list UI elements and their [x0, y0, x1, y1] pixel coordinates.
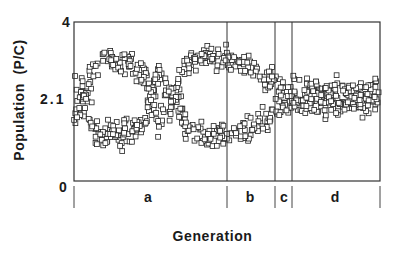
- data-point-square: [243, 69, 248, 74]
- region-label-b: b: [242, 189, 258, 205]
- data-point-square: [202, 137, 207, 142]
- data-point-square: [218, 128, 223, 133]
- data-point-square: [270, 74, 275, 79]
- data-point-square: [134, 79, 139, 84]
- data-point-square: [211, 131, 216, 136]
- data-point-square: [366, 98, 371, 103]
- data-point-square: [117, 128, 122, 133]
- data-point-square: [146, 86, 151, 91]
- data-point-square: [342, 107, 347, 112]
- data-point-square: [286, 85, 291, 90]
- data-point-square: [95, 142, 100, 147]
- data-point-square: [279, 93, 284, 98]
- data-point-square: [221, 141, 226, 146]
- data-point-square: [351, 83, 356, 88]
- data-point-square: [277, 113, 282, 118]
- data-point-square: [156, 134, 161, 139]
- region-label-a: a: [140, 189, 156, 205]
- data-point-square: [304, 104, 309, 109]
- data-point-square: [292, 89, 297, 94]
- data-point-square: [156, 119, 161, 124]
- data-point-square: [314, 79, 319, 84]
- data-point-square: [196, 125, 201, 130]
- data-point-square: [153, 77, 158, 82]
- data-point-square: [329, 99, 334, 104]
- data-point-square: [143, 120, 148, 125]
- data-point-square: [178, 106, 183, 111]
- data-point-square: [248, 70, 253, 75]
- data-point-square: [329, 107, 334, 112]
- data-point-square: [167, 118, 172, 123]
- y-tick-0: 0: [59, 180, 67, 194]
- data-point-square: [128, 64, 133, 69]
- region-label-c: c: [277, 189, 291, 205]
- data-point-square: [75, 115, 80, 120]
- data-point-square: [351, 106, 356, 111]
- data-point-square: [263, 82, 268, 87]
- data-point-square: [373, 107, 378, 112]
- data-point-square: [334, 93, 339, 98]
- data-point-square: [102, 50, 107, 55]
- data-point-square: [80, 79, 85, 84]
- data-point-square: [122, 121, 127, 126]
- data-point-square: [122, 52, 127, 57]
- data-point-square: [161, 107, 166, 112]
- data-point-square: [90, 124, 95, 129]
- data-point-square: [322, 108, 327, 113]
- data-point-square: [156, 81, 161, 86]
- scatter-chart: [0, 0, 395, 255]
- data-point-square: [214, 69, 219, 74]
- data-point-square: [237, 60, 242, 65]
- data-point-square: [238, 124, 243, 129]
- region-label-d: d: [327, 189, 343, 205]
- data-point-square: [145, 105, 150, 110]
- data-point-square: [281, 80, 286, 85]
- data-point-square: [103, 141, 108, 146]
- data-point-square: [234, 131, 239, 136]
- data-point-square: [323, 113, 328, 118]
- data-point-square: [210, 57, 215, 62]
- data-point-square: [133, 134, 138, 139]
- data-point-square: [302, 88, 307, 93]
- data-point-square: [93, 64, 98, 69]
- y-tick-4: 4: [62, 15, 70, 29]
- data-point-square: [309, 81, 314, 86]
- data-point-square: [216, 52, 221, 57]
- data-point-square: [297, 77, 302, 82]
- data-point-square: [209, 46, 214, 51]
- data-point-square: [332, 83, 337, 88]
- data-point-square: [221, 123, 226, 128]
- data-point-square: [260, 104, 265, 109]
- data-point-square: [261, 126, 266, 131]
- data-point-square: [123, 126, 128, 131]
- data-point-square: [118, 144, 123, 149]
- data-point-square: [333, 87, 338, 92]
- data-point-square: [373, 85, 378, 90]
- data-point-square: [319, 93, 324, 98]
- data-point-square: [199, 119, 204, 124]
- data-point-square: [334, 73, 339, 78]
- data-point-square: [157, 67, 162, 72]
- data-point-square: [153, 72, 158, 77]
- y-tick-2-1: 2.1: [40, 92, 65, 106]
- data-point-square: [366, 103, 371, 108]
- data-point-square: [132, 118, 137, 123]
- data-point-square: [208, 136, 213, 141]
- data-point-square: [130, 139, 135, 144]
- data-point-square: [242, 121, 247, 126]
- data-point-square: [224, 42, 229, 47]
- data-point-square: [119, 69, 124, 74]
- data-point-square: [111, 63, 116, 68]
- data-point-square: [193, 68, 198, 73]
- data-point-square: [358, 93, 363, 98]
- data-point-square: [243, 134, 248, 139]
- data-point-square: [341, 88, 346, 93]
- data-point-square: [267, 69, 272, 74]
- data-point-square: [248, 115, 253, 120]
- data-point-square: [169, 99, 174, 104]
- data-point-square: [96, 73, 101, 78]
- x-axis-title: Generation: [0, 228, 395, 244]
- data-point-square: [273, 97, 278, 102]
- data-point-square: [218, 135, 223, 140]
- data-point-square: [334, 111, 339, 116]
